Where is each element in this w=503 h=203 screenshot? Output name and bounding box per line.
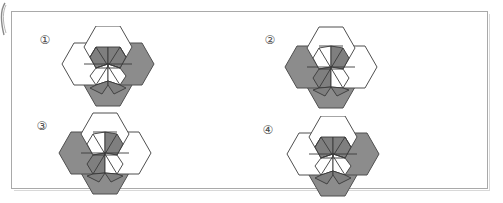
option-1[interactable]: ① xyxy=(34,26,184,112)
option-1-label: ① xyxy=(37,32,53,48)
scan-artifact xyxy=(0,2,7,36)
option-3-figure xyxy=(53,112,165,198)
option-4[interactable]: ④ xyxy=(257,116,407,202)
option-2[interactable]: ② xyxy=(259,26,409,112)
option-1-figure xyxy=(56,26,168,112)
page-root: ① xyxy=(0,0,503,203)
option-3[interactable]: ③ xyxy=(31,112,181,198)
answer-options-frame: ① xyxy=(11,11,488,189)
option-4-figure xyxy=(279,116,391,202)
option-3-label: ③ xyxy=(34,118,50,134)
option-4-label: ④ xyxy=(260,122,276,138)
option-2-figure xyxy=(281,26,393,112)
option-2-label: ② xyxy=(262,32,278,48)
frame-shadow-right xyxy=(489,14,490,191)
